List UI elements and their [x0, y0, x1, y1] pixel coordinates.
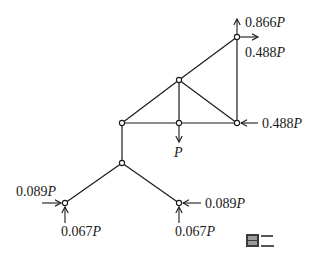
label-right-support-v: 0.067P [175, 224, 216, 239]
node-D [176, 120, 181, 125]
member-F-H [122, 163, 179, 203]
figure-caption [246, 234, 274, 247]
node-G [62, 200, 67, 205]
truss-nodes [62, 34, 239, 205]
member-B-A [179, 37, 237, 80]
node-B [176, 77, 181, 82]
label-top-up: 0.866P [245, 15, 286, 30]
truss-members [65, 37, 237, 203]
load-arrows [42, 19, 258, 223]
label-right-left: 0.488P [262, 116, 303, 131]
load-labels: 0.866P 0.488P 0.488P P 0.089P 0.067P 0.0… [16, 15, 303, 239]
node-H [176, 200, 181, 205]
truss-diagram: 0.866P 0.488P 0.488P P 0.089P 0.067P 0.0… [0, 0, 317, 270]
caption-glyph-icon [246, 234, 259, 247]
node-F [119, 160, 124, 165]
member-B-E [179, 80, 237, 123]
caption-glyph-detail [248, 236, 257, 240]
node-C [119, 120, 124, 125]
label-middle-down: P [173, 145, 183, 160]
label-top-right: 0.488P [245, 45, 286, 60]
node-A [234, 34, 239, 39]
member-F-G [65, 163, 122, 203]
label-left-support-h: 0.089P [16, 184, 57, 199]
node-E [234, 120, 239, 125]
member-C-B [122, 80, 179, 123]
label-right-support-h: 0.089P [205, 196, 246, 211]
label-left-support-v: 0.067P [61, 224, 102, 239]
caption-glyph-detail [248, 241, 257, 245]
